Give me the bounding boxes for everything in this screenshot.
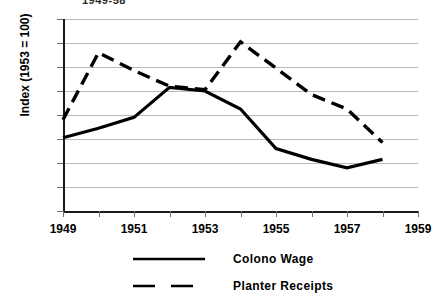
legend-swatch-solid-icon	[133, 254, 205, 264]
legend-label-planter-receipts: Planter Receipts	[233, 279, 333, 293]
plot-area: 020406080100120140160 194919511953195519…	[63, 19, 418, 211]
x-tick-mark	[276, 211, 277, 217]
x-tick-mark	[418, 211, 419, 217]
x-tick-mark	[63, 211, 64, 217]
chart-legend: Colono Wage Planter Receipts	[0, 245, 445, 299]
y-axis-label: Index (1953 = 100)	[18, 0, 32, 160]
clipped-chart-title: 1949-58	[82, 0, 282, 6]
chart-figure: 1949-58 Index (1953 = 100) 0204060801001…	[0, 0, 445, 303]
x-tick-label: 1953	[175, 222, 235, 236]
legend-item-planter-receipts: Planter Receipts	[0, 272, 445, 299]
x-tick-mark	[205, 211, 206, 217]
legend-label-colono-wage: Colono Wage	[233, 252, 314, 266]
series-line-planter-receipts	[63, 42, 383, 143]
x-tick-mark	[241, 211, 242, 217]
x-tick-mark	[347, 211, 348, 217]
x-tick-mark	[134, 211, 135, 217]
series-line-colono-wage	[63, 87, 383, 167]
x-tick-mark	[170, 211, 171, 217]
x-tick-mark	[99, 211, 100, 217]
legend-item-colono-wage: Colono Wage	[0, 245, 445, 272]
x-tick-label: 1955	[246, 222, 306, 236]
x-tick-mark	[312, 211, 313, 217]
x-tick-label: 1957	[317, 222, 377, 236]
x-tick-label: 1951	[104, 222, 164, 236]
x-tick-label: 1949	[33, 222, 93, 236]
x-tick-label: 1959	[388, 222, 445, 236]
series-layer	[63, 19, 418, 211]
x-tick-mark	[383, 211, 384, 217]
legend-swatch-dashed-icon	[133, 281, 205, 291]
